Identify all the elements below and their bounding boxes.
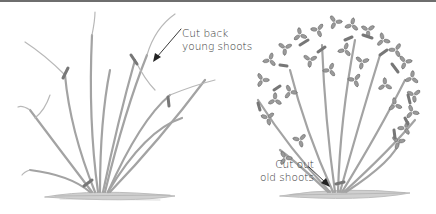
annotation-cut-out: Cut out old shoots [260, 158, 314, 184]
leaf [359, 62, 364, 69]
illustration-canvas: Cut back young shoots Cut out old shoots [0, 0, 436, 214]
annotation-cut-back: Cut back young shoots [182, 27, 252, 53]
leaf [263, 58, 270, 63]
leaf [395, 104, 402, 110]
leaf [269, 59, 276, 66]
leaf [278, 43, 285, 50]
leaf [408, 105, 413, 112]
leaf [257, 80, 263, 87]
leaf [410, 71, 414, 78]
leaf [362, 58, 369, 64]
leaf [395, 43, 402, 50]
leaf [401, 62, 407, 69]
leaf [329, 70, 336, 77]
leaf [285, 43, 292, 49]
leaf [343, 43, 348, 50]
cut-mark [392, 64, 398, 72]
annotation-line: Cut back [182, 27, 252, 40]
leaf [329, 63, 335, 70]
leaf [385, 84, 392, 90]
cut-mark [408, 95, 410, 103]
leaf [283, 49, 287, 56]
leaf [299, 134, 306, 141]
cut-mark [274, 86, 280, 90]
leaf [368, 25, 375, 31]
leaf [405, 59, 412, 64]
annotation-line: old shoots [260, 171, 314, 184]
leaf [405, 77, 412, 83]
leaf [267, 112, 274, 119]
leaf [311, 27, 318, 31]
leaf [293, 136, 300, 141]
leaf [336, 20, 343, 24]
leaf [354, 80, 360, 87]
leaf [389, 48, 396, 52]
leaf [354, 73, 361, 80]
leaf [329, 15, 336, 22]
leaf [308, 61, 312, 68]
leaf [412, 110, 419, 115]
annotation-line: Cut out [260, 158, 314, 171]
leaf [414, 89, 421, 96]
cut-mark [345, 37, 352, 40]
leaf [317, 23, 324, 30]
leaf [404, 128, 410, 135]
leaf [298, 140, 303, 147]
cut-mark [363, 35, 372, 38]
left-stems [30, 35, 205, 192]
cut-mark [380, 50, 387, 55]
leaf [383, 78, 387, 85]
cut-mark [280, 65, 287, 66]
leaf [395, 50, 401, 57]
leaf [383, 38, 390, 43]
leaf [284, 92, 291, 99]
leaf [338, 48, 345, 53]
leaf [406, 111, 413, 118]
leaf [303, 54, 310, 61]
leaf [351, 24, 358, 31]
cut-mark [258, 103, 260, 110]
left-ground [45, 192, 175, 200]
leaf [350, 18, 355, 25]
leaf [377, 39, 384, 46]
left-cut-marks [63, 55, 169, 186]
leaf [355, 56, 362, 63]
cut-mark [318, 47, 325, 52]
leaf [257, 73, 263, 80]
cut-mark [336, 182, 344, 184]
leaf [263, 78, 269, 82]
leaf [378, 84, 385, 91]
leaf [361, 25, 368, 31]
leaf [293, 34, 300, 41]
annotation-line: young shoots [182, 40, 252, 53]
leaf [379, 33, 384, 40]
leaf [300, 34, 307, 40]
leaf [285, 85, 291, 92]
cut-mark [394, 130, 395, 138]
leaf [275, 99, 282, 105]
left-arrow [153, 29, 181, 62]
leaf [412, 96, 416, 103]
leaf [269, 53, 274, 60]
cut-mark [300, 40, 308, 45]
leaf [317, 30, 323, 37]
leaf [345, 23, 352, 28]
leaf [398, 126, 405, 130]
leaf [412, 77, 419, 84]
leaf [291, 90, 298, 94]
leaf [330, 22, 336, 29]
cut-mark [168, 97, 169, 106]
leaf [344, 49, 351, 56]
leaf [273, 93, 277, 100]
leaf [310, 55, 317, 61]
leaf [297, 28, 302, 35]
leaf [268, 99, 275, 105]
leaf [399, 55, 406, 62]
